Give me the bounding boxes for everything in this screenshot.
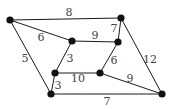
edge-weight-label: 9 (127, 73, 134, 84)
node-E (51, 69, 58, 76)
edge-weight-label: 6 (111, 55, 118, 66)
edge-B-D (118, 18, 121, 42)
edge-weight-label: 7 (111, 23, 118, 34)
edge-weight-label: 12 (143, 54, 157, 65)
node-D (114, 38, 121, 45)
node-C (68, 37, 75, 44)
edge-weight-label: 8 (66, 7, 73, 18)
node-B (117, 14, 124, 21)
edge-weight-label: 9 (92, 30, 99, 41)
edge-weight-label: 3 (55, 80, 62, 91)
node-H (158, 90, 165, 97)
edge-weight-label: 3 (67, 53, 74, 64)
edge-weight-label: 7 (104, 96, 111, 107)
edge-A-G (10, 20, 51, 94)
edge-weight-label: 6 (38, 32, 45, 43)
edge-weight-label: 5 (22, 53, 29, 64)
edge-weight-label: 10 (71, 73, 85, 84)
weighted-graph-diagram: 86975331061297 (0, 0, 176, 109)
node-F (96, 69, 103, 76)
node-A (6, 16, 13, 23)
